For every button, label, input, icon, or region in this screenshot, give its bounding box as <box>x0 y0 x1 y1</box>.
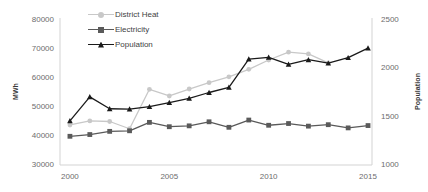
data-point <box>87 132 92 137</box>
legend-item[interactable]: Electricity <box>88 23 159 36</box>
x-axis-tick: 2005 <box>149 172 189 181</box>
y-axis-left-tick: 40000 <box>14 131 54 140</box>
data-point <box>147 120 152 125</box>
series-line <box>70 120 368 136</box>
data-point <box>207 80 212 85</box>
legend-marker <box>98 12 104 18</box>
series-electricity <box>68 118 371 139</box>
data-point <box>306 52 311 57</box>
data-point <box>167 94 172 99</box>
legend-label: Population <box>114 40 153 49</box>
x-axis-tick: 2015 <box>348 172 388 181</box>
data-point <box>326 122 331 127</box>
data-point <box>365 45 371 50</box>
legend-key-circle-icon <box>88 9 114 20</box>
data-point <box>246 118 251 123</box>
data-point <box>346 125 351 130</box>
data-point <box>87 119 92 124</box>
legend-marker <box>98 27 104 33</box>
legend-item[interactable]: Population <box>88 38 159 51</box>
y-axis-right-tick: 1000 <box>381 160 421 169</box>
data-point <box>306 124 311 129</box>
y-axis-left-tick: 80000 <box>14 15 54 24</box>
y-axis-left-tick: 70000 <box>14 44 54 53</box>
data-point <box>286 50 291 55</box>
data-point <box>127 128 132 133</box>
plot-area <box>0 0 428 192</box>
x-axis-tick: 2000 <box>50 172 90 181</box>
data-point <box>366 123 371 128</box>
y-axis-right-tick: 2000 <box>381 63 421 72</box>
data-point <box>107 119 112 124</box>
data-point <box>286 121 291 126</box>
data-point <box>227 74 232 79</box>
y-axis-left-tick: 50000 <box>14 102 54 111</box>
y-axis-left-tick: 60000 <box>14 73 54 82</box>
y-axis-right-tick: 2500 <box>381 15 421 24</box>
y-axis-left-tick: 30000 <box>14 160 54 169</box>
data-point <box>147 87 152 92</box>
data-point <box>227 125 232 130</box>
data-point <box>68 134 73 139</box>
legend-key-square-icon <box>88 24 114 35</box>
series-population <box>67 45 371 123</box>
legend-key-triangle-icon <box>88 39 114 50</box>
data-point <box>266 123 271 128</box>
data-point <box>187 87 192 92</box>
legend-item[interactable]: District Heat <box>88 8 159 21</box>
data-point <box>246 67 251 72</box>
y-axis-right-tick: 1500 <box>381 112 421 121</box>
x-axis-tick: 2010 <box>249 172 289 181</box>
chart-legend: District HeatElectricityPopulation <box>88 8 159 51</box>
legend-label: District Heat <box>114 10 159 19</box>
data-point <box>345 55 351 60</box>
data-point <box>187 123 192 128</box>
data-point <box>167 124 172 129</box>
data-point <box>107 129 112 134</box>
data-point <box>207 119 212 124</box>
data-point <box>87 94 93 99</box>
series-district-heat <box>68 50 331 131</box>
series-line <box>70 48 368 121</box>
legend-label: Electricity <box>114 25 149 34</box>
chart-container: MWh Population 3000040000500006000070000… <box>0 0 428 192</box>
